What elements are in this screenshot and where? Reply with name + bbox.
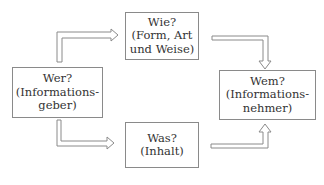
node-sender-line-1: Wer?: [43, 72, 72, 86]
node-sender: Wer? (Informations- geber): [12, 67, 103, 118]
node-receiver: Wem? (Informations- nehmer): [219, 70, 316, 120]
node-how-line-3: und Weise): [130, 43, 194, 57]
arrow-sender-to-what: [57, 120, 114, 149]
diagram-canvas: Wer? (Informations- geber) Wie? (Form, A…: [0, 0, 324, 185]
node-what-line-1: Was?: [147, 132, 177, 146]
node-receiver-line-2: (Informations-: [226, 88, 309, 102]
node-what: Was? (Inhalt): [125, 122, 199, 168]
node-how-line-2: (Form, Art: [132, 29, 193, 43]
node-how: Wie? (Form, Art und Weise): [125, 12, 199, 60]
node-sender-line-2: (Informations-: [16, 86, 99, 100]
node-how-line-1: Wie?: [148, 16, 176, 30]
node-receiver-line-3: nehmer): [243, 102, 292, 116]
node-sender-line-3: geber): [38, 99, 76, 113]
arrow-what-to-receiver: [211, 124, 271, 148]
node-receiver-line-1: Wem?: [250, 75, 285, 89]
node-what-line-2: (Inhalt): [140, 145, 183, 159]
arrow-sender-to-how: [57, 29, 118, 62]
arrow-how-to-receiver: [212, 36, 271, 69]
